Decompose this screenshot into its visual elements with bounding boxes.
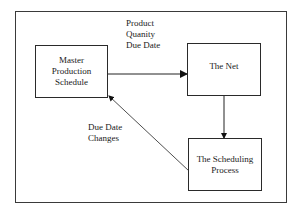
node-scheduling-process: The Scheduling Process <box>188 138 262 191</box>
edge-label-line: Due Date <box>126 40 160 51</box>
node-label-line: Master <box>52 55 92 66</box>
node-the-net: The Net <box>187 43 261 96</box>
node-label-line: The Scheduling <box>197 154 254 165</box>
edge-label-scheduling-to-mps: Due Date Changes <box>88 122 122 144</box>
edge-label-line: Changes <box>88 133 122 144</box>
edge-label-line: Quanity <box>126 29 160 40</box>
node-master-production-schedule: Master Production Schedule <box>35 45 108 98</box>
edge-label-line: Due Date <box>88 122 122 133</box>
node-label-line: Schedule <box>52 77 92 88</box>
edge-label-mps-to-net: Product Quanity Due Date <box>126 18 160 51</box>
edge-label-line: Product <box>126 18 160 29</box>
node-label-line: Process <box>197 165 254 176</box>
node-label-line: The Net <box>209 61 238 72</box>
node-label-line: Production <box>52 66 92 77</box>
